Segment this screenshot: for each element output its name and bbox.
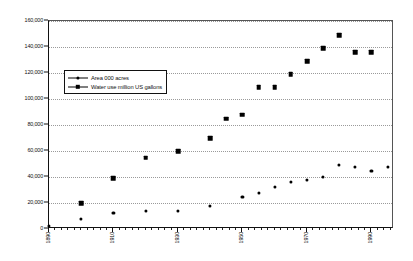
x-tick-minor <box>280 228 281 230</box>
x-tick-minor <box>358 228 359 230</box>
x-tick-minor <box>125 228 126 230</box>
x-tick-minor <box>345 228 346 230</box>
x-tick-minor <box>151 228 152 230</box>
x-tick-minor <box>106 228 107 230</box>
x-tick-minor <box>390 228 391 230</box>
x-tick-minor <box>261 228 262 230</box>
legend-label-water-use: Water use million US gallons <box>88 84 162 90</box>
x-tick-minor <box>351 228 352 230</box>
x-tick-minor <box>383 228 384 230</box>
x-tick-label: 1930 <box>174 232 180 243</box>
x-tick-minor <box>183 228 184 230</box>
x-tick-minor <box>274 228 275 230</box>
x-tick-label: 1970 <box>303 232 309 243</box>
legend-marker-circle-icon <box>68 74 88 82</box>
x-tick-minor <box>54 228 55 230</box>
x-tick-minor <box>190 228 191 230</box>
x-tick-label: 1890 <box>45 232 51 243</box>
x-tick-minor <box>222 228 223 230</box>
x-tick-minor <box>267 228 268 230</box>
x-tick-label: 1990 <box>367 232 373 243</box>
x-tick-minor <box>235 228 236 230</box>
x-tick-minor <box>138 228 139 230</box>
x-tick-minor <box>74 228 75 230</box>
x-tick-minor <box>287 228 288 230</box>
x-tick-minor <box>338 228 339 230</box>
legend-item-area: Area 000 acres <box>68 73 162 82</box>
x-tick-minor <box>100 228 101 230</box>
x-tick-minor <box>164 228 165 230</box>
x-tick-minor <box>203 228 204 230</box>
x-tick-minor <box>300 228 301 230</box>
x-tick-minor <box>293 228 294 230</box>
scatter-chart: 020,00040,00060,00080,000100,000120,0001… <box>0 0 413 261</box>
x-tick-minor <box>319 228 320 230</box>
x-axis: 189019101930195019701990 <box>0 0 413 261</box>
x-tick-minor <box>377 228 378 230</box>
x-tick-minor <box>80 228 81 230</box>
chart-legend: Area 000 acres Water use million US gall… <box>64 70 167 94</box>
x-tick-label: 1950 <box>238 232 244 243</box>
x-tick-minor <box>312 228 313 230</box>
x-tick-minor <box>325 228 326 230</box>
x-tick-minor <box>229 228 230 230</box>
x-tick-minor <box>332 228 333 230</box>
x-tick-label: 1910 <box>109 232 115 243</box>
x-tick-minor <box>119 228 120 230</box>
x-tick-minor <box>209 228 210 230</box>
x-tick-minor <box>216 228 217 230</box>
x-tick-minor <box>171 228 172 230</box>
x-tick-minor <box>254 228 255 230</box>
x-tick-minor <box>87 228 88 230</box>
x-tick-minor <box>145 228 146 230</box>
x-tick-minor <box>132 228 133 230</box>
x-tick-minor <box>364 228 365 230</box>
x-tick-minor <box>61 228 62 230</box>
x-tick-minor <box>93 228 94 230</box>
legend-marker-square-icon <box>68 83 88 91</box>
legend-label-area: Area 000 acres <box>88 75 129 81</box>
x-tick-minor <box>196 228 197 230</box>
x-tick-minor <box>67 228 68 230</box>
x-tick-minor <box>248 228 249 230</box>
legend-item-water-use: Water use million US gallons <box>68 82 162 91</box>
x-tick-minor <box>158 228 159 230</box>
